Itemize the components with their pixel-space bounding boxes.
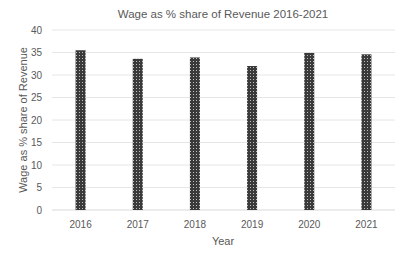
y-tick-label: 15 bbox=[31, 137, 43, 148]
y-tick-label: 35 bbox=[31, 47, 43, 58]
y-axis-ticks: 0510152025303540 bbox=[31, 25, 43, 216]
y-tick-label: 20 bbox=[31, 115, 43, 126]
x-axis-ticks: 201620172018201920202021 bbox=[69, 219, 378, 230]
x-tick-label: 2016 bbox=[69, 219, 92, 230]
bars bbox=[76, 50, 372, 210]
bar-2019 bbox=[247, 66, 257, 210]
y-tick-label: 25 bbox=[31, 92, 43, 103]
y-axis-label: Wage as % share of Revenue bbox=[17, 47, 29, 193]
bar-chart: Wage as % share of Revenue 2016-2021 051… bbox=[0, 0, 413, 256]
x-tick-label: 2017 bbox=[127, 219, 150, 230]
bar-2016 bbox=[76, 50, 86, 210]
bar-2020 bbox=[304, 53, 314, 210]
y-tick-label: 10 bbox=[31, 160, 43, 171]
bar-2017 bbox=[133, 59, 143, 210]
y-tick-label: 30 bbox=[31, 70, 43, 81]
chart-title: Wage as % share of Revenue 2016-2021 bbox=[118, 8, 329, 20]
y-tick-label: 5 bbox=[36, 182, 42, 193]
x-tick-label: 2021 bbox=[355, 219, 378, 230]
y-tick-label: 0 bbox=[36, 205, 42, 216]
y-tick-label: 40 bbox=[31, 25, 43, 36]
x-tick-label: 2018 bbox=[184, 219, 207, 230]
bar-2018 bbox=[190, 57, 200, 210]
bar-2021 bbox=[361, 54, 371, 210]
x-axis-label: Year bbox=[212, 235, 235, 247]
x-tick-label: 2020 bbox=[298, 219, 321, 230]
gridlines bbox=[52, 30, 395, 210]
x-tick-label: 2019 bbox=[241, 219, 264, 230]
